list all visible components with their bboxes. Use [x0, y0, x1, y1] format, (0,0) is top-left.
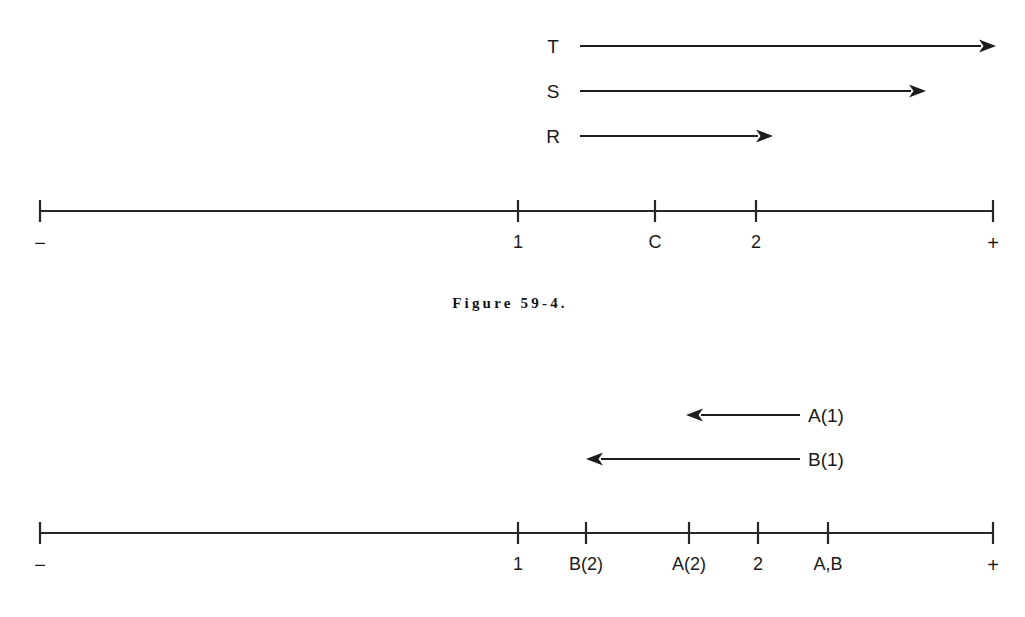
vector-label: R — [546, 127, 560, 146]
vector-label: B(1) — [808, 450, 844, 469]
axis-tick-label: 1 — [513, 555, 523, 573]
vector-arrowhead — [586, 453, 603, 466]
figure-caption: Figure 59-4. — [452, 296, 568, 311]
figure-canvas: −1C2+TSR−1B(2)A(2)2A,B+A(1)B(1) Figure 5… — [0, 0, 1025, 617]
vector-label: S — [547, 82, 560, 101]
vector-arrowhead — [909, 85, 926, 98]
axis-tick-label: C — [649, 233, 662, 251]
vector-arrowhead — [686, 409, 703, 422]
vector-arrowhead — [756, 130, 773, 143]
axis-tick-label: A(2) — [672, 555, 706, 573]
axis-end-label: − — [34, 233, 46, 253]
axis-end-label: − — [34, 555, 46, 575]
vector-arrows-group — [580, 40, 996, 466]
vector-arrowhead — [979, 40, 996, 53]
axis-end-label: + — [987, 555, 999, 575]
vector-label: T — [547, 37, 559, 56]
axis-tick-label: 1 — [513, 233, 523, 251]
axis-tick-label: A,B — [813, 555, 842, 573]
vector-label: A(1) — [808, 406, 844, 425]
axis-tick-label: 2 — [751, 233, 761, 251]
axis-end-label: + — [987, 233, 999, 253]
axis-tick-label: B(2) — [569, 555, 603, 573]
axis-tick-label: 2 — [753, 555, 763, 573]
